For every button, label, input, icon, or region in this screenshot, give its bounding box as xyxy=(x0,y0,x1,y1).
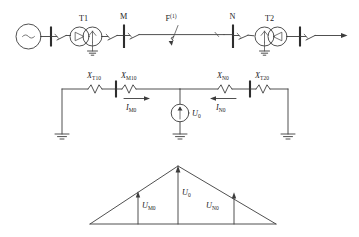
breaker-gen-t1 xyxy=(51,34,71,40)
ground-symbol-center xyxy=(173,134,187,139)
voltage-um0-label: UM0 xyxy=(142,201,156,211)
reactance-xn0-label: XN0 xyxy=(216,71,229,81)
bus-n-label: N xyxy=(230,12,236,21)
reactance-xt10: XT10 xyxy=(86,71,102,93)
transformer-t2-label: T2 xyxy=(265,14,274,23)
reactance-xn0: XN0 xyxy=(216,71,232,93)
fault-symbol: F(1) xyxy=(166,13,179,46)
single-line-diagram: T1 M F(1) xyxy=(16,12,348,55)
current-in0-label: ̇IN0 xyxy=(215,103,226,113)
breaker-t1-m xyxy=(102,34,124,40)
power-system-diagram: T1 M F(1) xyxy=(0,0,359,237)
transformer-t1: T1 xyxy=(70,14,102,56)
bus-n: N xyxy=(230,12,236,48)
generator-symbol xyxy=(16,24,41,49)
current-arrow-in0: ̇IN0 xyxy=(210,96,236,113)
bus-m: M xyxy=(120,12,128,48)
ground-symbol-t1 xyxy=(88,51,98,55)
reactance-xt20-label: XT20 xyxy=(254,71,269,81)
voltage-arrow-um0: UM0 xyxy=(136,191,156,224)
ground-symbol-right xyxy=(281,134,295,139)
reactance-xm10: XM10 xyxy=(116,71,137,93)
current-arrow-im0: ̇IM0 xyxy=(124,96,150,113)
current-im0-label: ̇IM0 xyxy=(125,103,137,113)
fault-label: F(1) xyxy=(166,13,177,23)
breaker-n-t2 xyxy=(233,33,254,39)
breaker-outgoing xyxy=(300,33,348,40)
zero-sequence-network: XT10 XM10 ̇IM0 xyxy=(55,71,295,139)
reactance-xt20: XT20 xyxy=(250,71,270,93)
voltage-arrow-un0: UN0 xyxy=(206,192,236,224)
transformer-t1-label: T1 xyxy=(79,14,88,23)
voltage-u0-label: ̇U0 xyxy=(182,188,191,198)
reactance-xt10-label: XT10 xyxy=(86,71,101,81)
triangle-right-side xyxy=(178,166,276,224)
ground-symbol-t2 xyxy=(260,51,270,55)
voltage-arrow-u0: ̇U0 xyxy=(176,166,191,225)
ground-symbol-left xyxy=(55,134,69,139)
bus-m-label: M xyxy=(120,12,128,21)
reactance-xm10-label: XM10 xyxy=(120,71,137,81)
voltage-un0-label: UN0 xyxy=(206,201,219,211)
figure-root: T1 M F(1) xyxy=(0,0,359,237)
triangle-left-side xyxy=(90,166,178,224)
transformer-t2: T2 xyxy=(255,14,287,56)
voltage-source-label: ̇U0 xyxy=(192,109,201,119)
arrow-outgoing xyxy=(341,33,348,38)
voltage-source-u0: ̇U0 xyxy=(171,104,201,134)
voltage-distribution-diagram: ̇U0 UM0 UN0 xyxy=(90,166,276,225)
